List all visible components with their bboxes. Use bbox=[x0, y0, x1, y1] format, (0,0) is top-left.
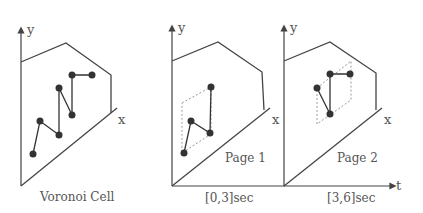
trajectory-points bbox=[30, 72, 96, 158]
trajectory bbox=[33, 75, 92, 154]
panel-page-1: y x Page 1 [0,3]sec bbox=[172, 20, 280, 205]
voronoi-boundary bbox=[172, 42, 264, 110]
caption-time-range: [3,6]sec bbox=[327, 191, 376, 205]
x-axis bbox=[284, 108, 382, 186]
x-axis-label: x bbox=[384, 112, 392, 127]
page-bounding-box bbox=[317, 61, 351, 124]
trajectory bbox=[317, 74, 350, 114]
page-label: Page 2 bbox=[337, 151, 378, 165]
x-axis-label: x bbox=[118, 112, 126, 127]
y-axis-label: y bbox=[26, 22, 35, 37]
t-axis-label: t bbox=[396, 178, 402, 193]
y-axis-label: y bbox=[289, 20, 298, 35]
caption-voronoi-cell: Voronoi Cell bbox=[39, 190, 114, 204]
voronoi-diagram: y x Voronoi Cell t y x P bbox=[0, 0, 423, 213]
y-axis-label: y bbox=[177, 20, 186, 35]
panel-voronoi-cell: y x Voronoi Cell bbox=[21, 22, 126, 204]
panel-page-2: y x Page 2 [3,6]sec bbox=[284, 20, 392, 205]
page-label: Page 1 bbox=[225, 151, 266, 165]
x-axis-label: x bbox=[272, 112, 280, 127]
caption-time-range: [0,3]sec bbox=[205, 191, 254, 205]
x-axis bbox=[21, 108, 117, 186]
x-axis bbox=[172, 108, 270, 186]
